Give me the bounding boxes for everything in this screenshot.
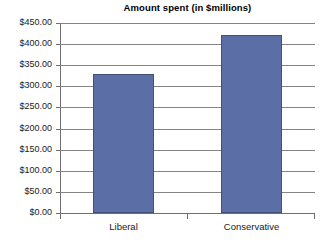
plot-area — [60, 23, 315, 213]
x-axis-category-divider-tick — [187, 214, 188, 219]
bar-conservative — [221, 35, 282, 213]
y-axis-tick-label: $300.00 — [0, 80, 52, 90]
y-axis-tick-label: $0.00 — [0, 207, 52, 217]
chart-title: Amount spent (in $millions) — [60, 2, 315, 13]
x-axis-label-liberal: Liberal — [60, 221, 187, 232]
x-axis-right-tick — [314, 214, 315, 219]
y-axis-tick-label: $250.00 — [0, 101, 52, 111]
y-axis-tick-label: $50.00 — [0, 186, 52, 196]
bar-chart: Amount spent (in $millions) $0.00$50.00$… — [0, 0, 327, 240]
y-axis-tick-label: $100.00 — [0, 165, 52, 175]
x-axis-label-conservative: Conservative — [188, 221, 315, 232]
y-axis-tick-label: $350.00 — [0, 59, 52, 69]
y-axis-tick-label: $150.00 — [0, 144, 52, 154]
x-axis-left-tick — [60, 214, 61, 219]
gridline — [60, 23, 315, 24]
y-axis-tick-label: $450.00 — [0, 17, 52, 27]
bar-liberal — [93, 74, 154, 213]
y-axis-tick-label: $200.00 — [0, 123, 52, 133]
y-axis-tick-label: $400.00 — [0, 38, 52, 48]
